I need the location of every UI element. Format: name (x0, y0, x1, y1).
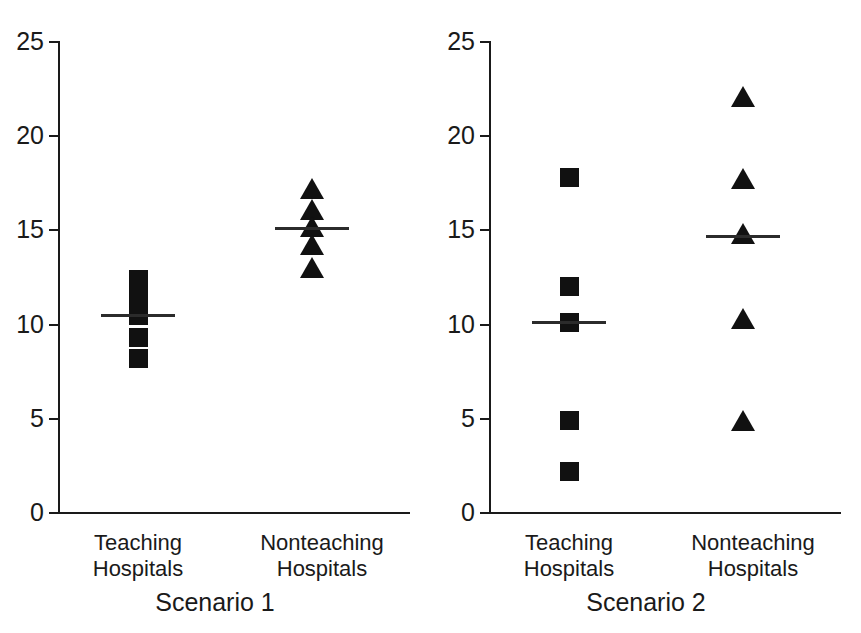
y-tick-20 (49, 135, 58, 137)
data-point-square (129, 270, 148, 289)
mean-line (101, 314, 175, 317)
group-label-line2: Hospitals (232, 556, 412, 582)
y-tick-label-15: 15 (431, 217, 475, 242)
y-axis-line-scenario-1 (58, 41, 60, 514)
data-point-triangle (300, 257, 324, 278)
group-label-line1: Teaching (489, 530, 649, 556)
y-tick-label-20: 20 (431, 123, 475, 148)
y-tick-0 (480, 512, 489, 514)
y-tick-label-0: 0 (431, 500, 475, 525)
y-tick-5 (480, 418, 489, 420)
mean-line (275, 227, 349, 230)
scenario-title-1: Scenario 1 (0, 588, 430, 617)
y-tick-10 (480, 324, 489, 326)
y-tick-label-5: 5 (431, 406, 475, 431)
group-label-line1: Nonteaching (663, 530, 843, 556)
scenario-title-2: Scenario 2 (431, 588, 861, 617)
group-label-line2: Hospitals (58, 556, 218, 582)
data-point-triangle (300, 178, 324, 199)
group-label-teaching-scenario-2: Teaching Hospitals (489, 530, 649, 582)
y-tick-10 (49, 324, 58, 326)
y-tick-label-0: 0 (0, 500, 44, 525)
data-point-square (129, 349, 148, 368)
data-point-square (560, 411, 579, 430)
group-label-line1: Nonteaching (232, 530, 412, 556)
data-point-triangle (731, 86, 755, 107)
group-label-nonteaching-scenario-1: Nonteaching Hospitals (232, 530, 412, 582)
y-tick-label-5: 5 (0, 406, 44, 431)
panel-scenario-2: 2520151050 Teaching Hospitals Nonteachin… (431, 0, 861, 633)
data-point-square (560, 462, 579, 481)
y-axis-line-scenario-2 (489, 41, 491, 514)
mean-line (706, 235, 780, 238)
dot-plot-figure: 2520151050 Teaching Hospitals Nonteachin… (0, 0, 861, 633)
group-label-line2: Hospitals (489, 556, 649, 582)
y-tick-label-10: 10 (0, 312, 44, 337)
y-tick-label-20: 20 (0, 123, 44, 148)
data-point-triangle (731, 308, 755, 329)
y-tick-25 (480, 41, 489, 43)
y-tick-20 (480, 135, 489, 137)
group-label-line1: Teaching (58, 530, 218, 556)
panel-scenario-1: 2520151050 Teaching Hospitals Nonteachin… (0, 0, 430, 633)
mean-line (532, 321, 606, 324)
x-axis-line-scenario-2 (489, 512, 841, 514)
group-label-teaching-scenario-1: Teaching Hospitals (58, 530, 218, 582)
y-tick-label-25: 25 (431, 29, 475, 54)
data-point-triangle (731, 168, 755, 189)
data-point-triangle (300, 234, 324, 255)
data-point-triangle (731, 410, 755, 431)
data-point-square (560, 168, 579, 187)
y-tick-15 (49, 229, 58, 231)
y-tick-0 (49, 512, 58, 514)
data-point-square (129, 328, 148, 347)
y-tick-label-25: 25 (0, 29, 44, 54)
group-label-nonteaching-scenario-2: Nonteaching Hospitals (663, 530, 843, 582)
y-tick-label-10: 10 (431, 312, 475, 337)
data-point-square (560, 277, 579, 296)
y-tick-15 (480, 229, 489, 231)
data-point-triangle (731, 223, 755, 244)
y-tick-5 (49, 418, 58, 420)
y-tick-25 (49, 41, 58, 43)
x-axis-line-scenario-1 (58, 512, 410, 514)
group-label-line2: Hospitals (663, 556, 843, 582)
y-tick-label-15: 15 (0, 217, 44, 242)
